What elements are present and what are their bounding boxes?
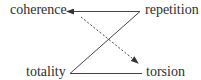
edge-repetition-to-totality	[70, 12, 140, 74]
node-coherence: coherence	[10, 3, 67, 17]
node-repetition: repetition	[145, 3, 199, 17]
node-torsion: torsion	[146, 65, 185, 79]
node-totality: totality	[26, 65, 66, 79]
concept-diagram: coherence repetition totality torsion	[0, 0, 201, 80]
